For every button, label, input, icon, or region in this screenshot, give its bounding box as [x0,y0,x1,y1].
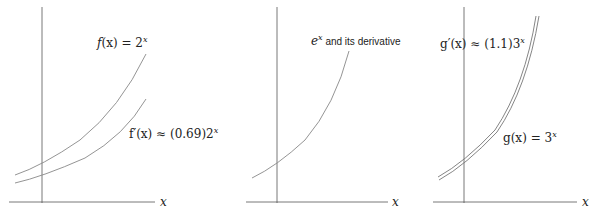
curve-f-prime [15,99,146,183]
label-f: f(x) = 2x [96,35,148,50]
label-g: g(x) = 3x [503,130,557,145]
x-axis-label: x [160,195,167,209]
label-g-prime: g′(x) ≈ (1.1)3x [440,36,525,51]
x-axis-label: x [392,195,399,209]
curve-f [15,54,146,175]
panel-2x: x f(x) = 2x f′(x) ≈ (0.69)2x [9,7,219,209]
label-e: ex and its derivative [311,33,401,48]
x-axis-label: x [582,195,589,209]
curve-e [252,51,349,178]
label-f-prime: f′(x) ≈ (0.69)2x [129,126,219,141]
panel-ex: x ex and its derivative [246,7,401,209]
panel-3x: x g′(x) ≈ (1.1)3x g(x) = 3x [433,7,589,209]
exponential-derivative-figure: x f(x) = 2x f′(x) ≈ (0.69)2x x ex and it… [0,0,600,216]
